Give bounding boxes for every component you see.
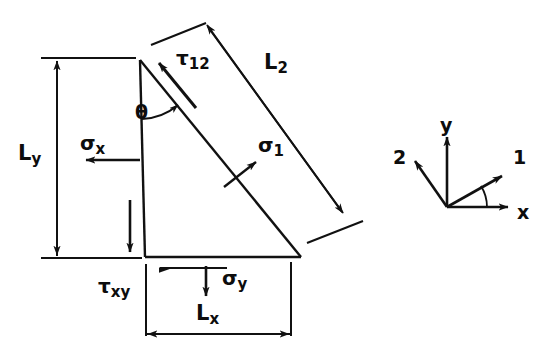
label-sigma-1: σ1: [258, 135, 284, 159]
sigma-x-subscript: x: [96, 140, 106, 158]
L-x-subscript: x: [209, 310, 219, 328]
label-sigma-y: σy: [222, 268, 247, 292]
sigma-x-symbol: σ: [80, 131, 96, 155]
sigma-1-symbol: σ: [258, 133, 274, 157]
tau-12-symbol: τ: [176, 46, 189, 70]
L-x-symbol: L: [196, 301, 209, 325]
L-y-subscript: y: [31, 150, 41, 168]
label-axis-y: y: [440, 116, 452, 135]
label-tau-xy: τxy: [98, 276, 130, 300]
sigma-y-symbol: σ: [222, 266, 238, 290]
label-L-y: Ly: [18, 143, 41, 167]
axes-inset: [415, 137, 508, 207]
label-tau-12: τ12: [176, 48, 210, 72]
sigma-y-subscript: y: [238, 275, 248, 293]
L2-extension-top: [151, 23, 206, 45]
L-2-subscript: 2: [277, 59, 287, 77]
axes-inset-angle-arc: [481, 186, 487, 207]
L2-extension-bottom: [307, 221, 363, 243]
label-axis-1: 1: [513, 148, 526, 167]
label-axis-2: 2: [393, 148, 406, 167]
label-sigma-x: σx: [80, 133, 105, 157]
axis-2-arrow: [415, 161, 447, 207]
tau-12-subscript: 12: [189, 55, 210, 73]
label-theta: θ: [135, 103, 148, 122]
triangle-left-edge: [140, 60, 145, 257]
label-L-x: Lx: [196, 303, 219, 327]
tau-xy-subscript: xy: [111, 283, 130, 301]
L-2-symbol: L: [264, 50, 277, 74]
Ly-dimension: [41, 58, 142, 258]
tau-xy-symbol: τ: [98, 274, 111, 298]
label-L-2: L2: [264, 52, 288, 76]
L-y-symbol: L: [18, 141, 31, 165]
sigma-1-subscript: 1: [274, 142, 284, 160]
axis-1-arrow: [447, 176, 502, 207]
figure-canvas: τ12 L2 θ σx σ1 Ly τxy σy Lx y x 1 2: [0, 0, 541, 360]
theta-symbol: θ: [135, 101, 148, 123]
label-axis-x: x: [517, 203, 529, 222]
